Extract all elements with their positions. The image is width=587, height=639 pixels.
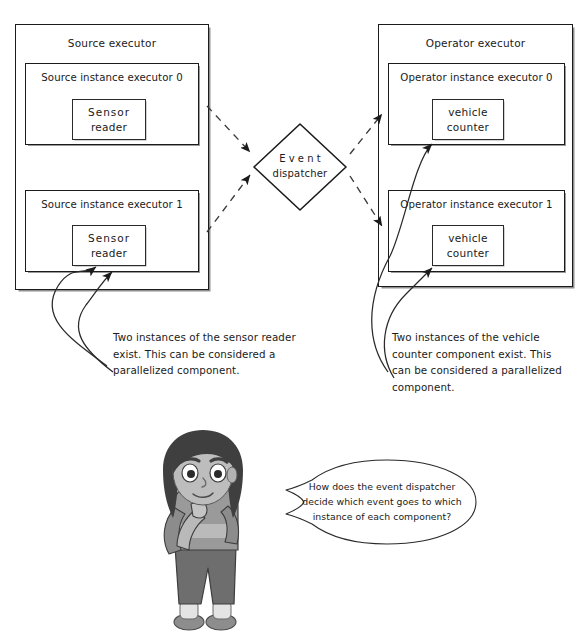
diagram-canvas: Source executor Source instance executor… (0, 0, 587, 639)
vehicle-counter-1-label-line1: vehicle (433, 230, 503, 245)
source-instance-executor-1-title: Source instance executor 1 (26, 199, 198, 210)
sensor-reader-1-label-line1: Sensor (73, 230, 145, 245)
event-dispatcher-label-line1: Event (252, 151, 348, 166)
vehicle-counter-component-0: vehicle counter (432, 99, 504, 140)
operator-executor-title: Operator executor (379, 37, 572, 49)
sensor-reader-component-0: Sensor reader (72, 99, 146, 140)
event-dispatcher-label: Event dispatcher (252, 151, 348, 181)
vehicle-counter-0-label: vehicle counter (433, 104, 503, 134)
sensor-reader-component-1: Sensor reader (72, 225, 146, 266)
character-ear (227, 467, 237, 483)
dash-source0-to-dispatcher (207, 106, 250, 152)
speech-bubble-text: How does the event dispatcher decide whi… (294, 479, 470, 524)
vehicle-counter-1-label: vehicle counter (433, 230, 503, 260)
source-instance-executor-0-title: Source instance executor 0 (26, 72, 198, 83)
source-executor-title: Source executor (16, 37, 208, 49)
sensor-reader-1-label-line2: reader (73, 246, 145, 261)
vehicle-counter-1-label-line2: counter (433, 246, 503, 261)
caption-right-text: Two instances of the vehicle counter com… (392, 329, 572, 396)
sensor-reader-0-label-line2: reader (73, 120, 145, 135)
operator-instance-executor-0-title: Operator instance executor 0 (389, 72, 564, 83)
vehicle-counter-0-label-line2: counter (433, 120, 503, 135)
vehicle-counter-0-label-line1: vehicle (433, 104, 503, 119)
speech-bubble: How does the event dispatcher decide whi… (284, 458, 480, 546)
sensor-reader-0-label-line1: Sensor (73, 104, 145, 119)
character-pupil-right (214, 470, 222, 478)
operator-instance-executor-1-title: Operator instance executor 1 (389, 199, 564, 210)
character-illustration (133, 428, 278, 633)
character-pants (175, 546, 236, 604)
caption-left-text: Two instances of the sensor reader exist… (113, 329, 313, 379)
sensor-reader-1-label: Sensor reader (73, 230, 145, 260)
event-dispatcher-node: Event dispatcher (252, 122, 348, 212)
character-pupil-left (187, 470, 195, 478)
sensor-reader-0-label: Sensor reader (73, 104, 145, 134)
vehicle-counter-component-1: vehicle counter (432, 225, 504, 266)
dash-source1-to-dispatcher (207, 175, 250, 232)
event-dispatcher-label-line2: dispatcher (252, 166, 348, 181)
